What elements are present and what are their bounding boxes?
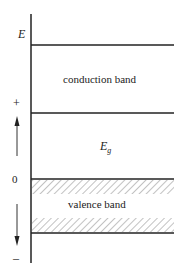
up-arrow-icon [15, 116, 20, 126]
band-gap-subscript: g [107, 146, 111, 155]
plus-label: + [13, 96, 20, 110]
band-diagram: E conduction band + Eg 0 valence band – [0, 0, 183, 278]
conduction-band-label: conduction band [63, 73, 137, 85]
zero-label: 0 [12, 173, 18, 185]
band-gap-label: Eg [99, 139, 111, 155]
valence-band-label: valence band [68, 198, 126, 210]
minus-label: – [12, 251, 20, 265]
valence-band-bottom-hatch [32, 218, 174, 232]
valence-band-top-hatch [32, 180, 174, 194]
down-arrow-icon [15, 236, 20, 246]
energy-axis-label: E [17, 27, 26, 41]
